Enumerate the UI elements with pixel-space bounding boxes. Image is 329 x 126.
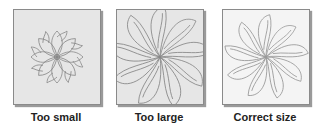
panel-too-small xyxy=(13,9,101,105)
caption-too-small: Too small xyxy=(6,111,106,123)
large-swirl-motif-icon xyxy=(117,10,203,104)
panel-too-large xyxy=(116,9,204,105)
fitted-swirl-motif-icon xyxy=(223,10,309,104)
small-flower-motif-icon xyxy=(14,10,100,104)
caption-too-large: Too large xyxy=(109,111,209,123)
panel-correct-size xyxy=(222,9,310,105)
caption-correct-size: Correct size xyxy=(215,111,315,123)
